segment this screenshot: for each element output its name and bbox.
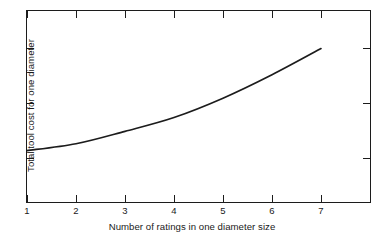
x-tick-top-6	[272, 11, 273, 18]
y-tick-right-2	[363, 103, 370, 104]
x-tick-label-6: 6	[262, 205, 282, 216]
x-tick-top-3	[125, 11, 126, 18]
y-tick-right-3	[363, 158, 370, 159]
x-tick-label-3: 3	[115, 205, 135, 216]
x-tick-bottom-4	[174, 195, 175, 202]
x-tick-bottom-5	[223, 195, 224, 202]
x-axis-title: Number of ratings in one diameter size	[0, 221, 384, 232]
x-tick-label-1: 1	[17, 205, 37, 216]
y-tick-right-1	[363, 48, 370, 49]
x-tick-label-4: 4	[164, 205, 184, 216]
x-tick-label-7: 7	[311, 205, 331, 216]
x-tick-label-5: 5	[213, 205, 233, 216]
x-tick-top-2	[76, 11, 77, 18]
x-tick-top-5	[223, 11, 224, 18]
plot-area-frame	[26, 10, 371, 203]
y-axis-title: Total tool cost for one diameter	[25, 13, 36, 199]
x-tick-bottom-6	[272, 195, 273, 202]
x-tick-bottom-3	[125, 195, 126, 202]
x-tick-bottom-2	[76, 195, 77, 202]
x-tick-label-2: 2	[66, 205, 86, 216]
chart-figure: 1 2 3 4 5 6 7 Number of ratings in one d…	[0, 0, 384, 240]
x-tick-bottom-7	[321, 195, 322, 202]
x-tick-top-4	[174, 11, 175, 18]
x-tick-top-7	[321, 11, 322, 18]
